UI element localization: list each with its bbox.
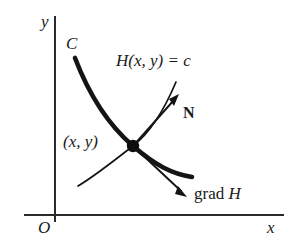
x-axis-label: x	[267, 219, 275, 236]
point-coordinates-label: (x, y)	[63, 133, 98, 150]
diagram-canvas	[0, 0, 295, 248]
origin-label: O	[38, 219, 50, 236]
gradient-normal-vector-diagram: y x O C (x, y) H(x, y) = c N grad H	[0, 0, 295, 248]
gradient-label: grad H	[194, 185, 241, 202]
gradient-label-function: H	[228, 184, 240, 203]
curve-C-label: C	[66, 35, 77, 52]
normal-vector-label: N	[183, 105, 195, 121]
curve-C-path	[75, 58, 192, 177]
gradient-label-roman: grad	[194, 184, 224, 203]
level-curve-equation-label: H(x, y) = c	[116, 52, 191, 69]
gradient-vector-shaft	[133, 146, 181, 191]
y-axis-label: y	[41, 13, 49, 30]
normal-vector-shaft	[133, 100, 174, 146]
point-marker-dot	[127, 140, 139, 152]
